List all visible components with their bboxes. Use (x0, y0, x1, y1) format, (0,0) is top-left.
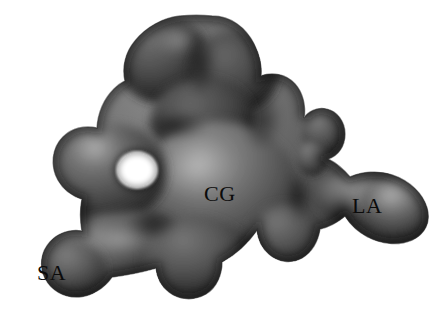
crease-cg-la (286, 170, 314, 222)
figure-canvas: CG LA SA (0, 0, 442, 321)
crease-neck-left (140, 112, 208, 140)
isosurface-rendering (0, 0, 442, 321)
small-arm-label: SA (37, 262, 66, 284)
crease-sa-cg (126, 208, 178, 240)
through-hole-group (116, 151, 158, 189)
crease-ring-sa (56, 200, 100, 228)
large-arm-label: LA (352, 195, 382, 217)
crease-upper-lobes (184, 28, 216, 96)
central-globule-label: CG (204, 183, 236, 205)
crease-right-upper (242, 90, 282, 150)
